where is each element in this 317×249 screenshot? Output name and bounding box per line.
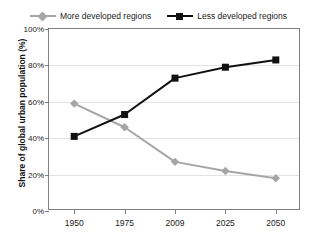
series-line bbox=[74, 60, 276, 136]
y-axis-tick-label: 0% bbox=[32, 207, 44, 216]
diamond-data-marker bbox=[70, 99, 78, 107]
legend-swatch-less-developed bbox=[167, 11, 193, 21]
series-line bbox=[74, 104, 276, 179]
legend-label-more-developed: More developed regions bbox=[60, 11, 151, 21]
series-layer bbox=[49, 29, 301, 211]
square-data-marker bbox=[172, 75, 179, 82]
y-axis-title: Share of global urban population (%) bbox=[17, 23, 27, 203]
y-axis-tick-label: 20% bbox=[28, 170, 44, 179]
x-axis-tick-label: 1950 bbox=[65, 218, 84, 228]
square-marker-icon bbox=[176, 13, 183, 20]
line-chart: More developed regions Less developed re… bbox=[0, 0, 317, 249]
x-axis-tick-label: 2025 bbox=[216, 218, 235, 228]
square-data-marker bbox=[71, 133, 78, 140]
y-axis-tick-label: 60% bbox=[28, 97, 44, 106]
chart-legend: More developed regions Less developed re… bbox=[0, 8, 317, 24]
diamond-data-marker bbox=[272, 174, 280, 182]
y-axis-tick-label: 80% bbox=[28, 61, 44, 70]
square-data-marker bbox=[272, 56, 279, 63]
y-axis-tick-label: 100% bbox=[24, 25, 44, 34]
plot-wrapper: 0%20%40%60%80%100% 19501975200920252050 bbox=[48, 28, 300, 210]
y-axis-tick-mark bbox=[45, 211, 49, 212]
diamond-marker-icon bbox=[38, 12, 48, 22]
legend-item-less-developed[interactable]: Less developed regions bbox=[167, 11, 287, 21]
plot-area: 0%20%40%60%80%100% 19501975200920252050 bbox=[48, 28, 300, 210]
y-axis-tick-label: 40% bbox=[28, 134, 44, 143]
x-axis-tick-label: 2009 bbox=[166, 218, 185, 228]
legend-swatch-more-developed bbox=[30, 11, 56, 21]
square-data-marker bbox=[121, 111, 128, 118]
square-data-marker bbox=[222, 64, 229, 71]
x-axis-tick-label: 2050 bbox=[266, 218, 285, 228]
x-axis-tick-label: 1975 bbox=[115, 218, 134, 228]
legend-item-more-developed[interactable]: More developed regions bbox=[30, 11, 151, 21]
diamond-data-marker bbox=[221, 167, 229, 175]
legend-label-less-developed: Less developed regions bbox=[197, 11, 287, 21]
